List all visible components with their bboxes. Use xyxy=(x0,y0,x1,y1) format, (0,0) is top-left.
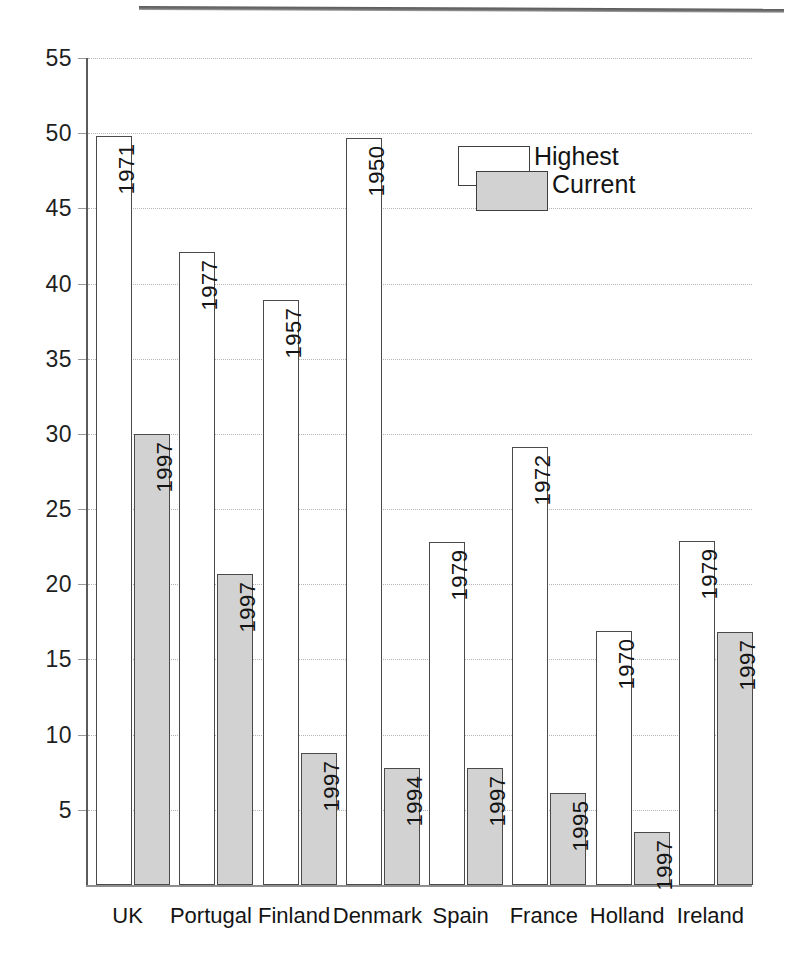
y-axis-tick xyxy=(78,359,86,360)
bar-value-label: 1971 xyxy=(114,144,140,195)
legend-swatch-current xyxy=(476,171,548,211)
x-axis-category-label: Spain xyxy=(432,903,488,929)
y-axis-tick xyxy=(78,58,86,59)
bar-france-current[interactable]: 1995 xyxy=(550,793,586,885)
y-axis-tick-label: 5 xyxy=(59,796,72,823)
y-axis-tick-label: 10 xyxy=(45,721,72,748)
bar-group: 19571997Finland xyxy=(253,58,336,885)
bar-finland-highest[interactable]: 1957 xyxy=(263,300,299,885)
bar-group: 19771997Portugal xyxy=(169,58,252,885)
bar-ireland-current[interactable]: 1997 xyxy=(717,632,753,885)
bar-value-label: 1977 xyxy=(197,260,223,311)
y-axis-tick xyxy=(78,584,86,585)
y-axis-tick-label: 30 xyxy=(45,420,72,447)
x-axis-category-label: Ireland xyxy=(677,903,744,929)
x-axis-category-label: Holland xyxy=(590,903,665,929)
bar-value-label: 1972 xyxy=(530,455,556,506)
bar-ireland-highest[interactable]: 1979 xyxy=(679,541,715,885)
y-axis-tick-label: 15 xyxy=(45,646,72,673)
y-axis-tick xyxy=(78,810,86,811)
bar-uk-current[interactable]: 1997 xyxy=(134,434,170,885)
bar-finland-current[interactable]: 1997 xyxy=(301,753,337,885)
bar-chart: 51015202530354045505519711997UK19771997P… xyxy=(0,0,789,966)
bar-portugal-current[interactable]: 1997 xyxy=(217,574,253,885)
x-axis-category-label: Portugal xyxy=(170,903,252,929)
x-axis-category-label: Finland xyxy=(258,903,330,929)
y-axis-tick-label: 55 xyxy=(45,45,72,72)
y-axis-tick-label: 50 xyxy=(45,120,72,147)
bar-value-label: 1950 xyxy=(364,145,390,196)
bar-holland-current[interactable]: 1997 xyxy=(634,832,670,885)
y-axis-tick xyxy=(78,509,86,510)
bar-uk-highest[interactable]: 1971 xyxy=(96,136,132,885)
bar-value-label: 1970 xyxy=(614,638,640,689)
y-axis-tick-label: 20 xyxy=(45,571,72,598)
bar-spain-current[interactable]: 1997 xyxy=(467,768,503,885)
bar-group: 19711997UK xyxy=(86,58,169,885)
y-axis-tick xyxy=(78,284,86,285)
x-axis-category-label: France xyxy=(510,903,578,929)
bar-group: 19501994Denmark xyxy=(336,58,419,885)
legend: Highest Current xyxy=(458,146,698,224)
x-axis-category-label: Denmark xyxy=(333,903,422,929)
y-axis-tick-label: 25 xyxy=(45,496,72,523)
y-axis-tick-label: 45 xyxy=(45,195,72,222)
y-axis-tick xyxy=(78,434,86,435)
y-axis-tick-label: 35 xyxy=(45,345,72,372)
legend-label-highest: Highest xyxy=(534,142,619,171)
y-axis-tick xyxy=(78,659,86,660)
bar-value-label: 1957 xyxy=(281,308,307,359)
y-axis-tick xyxy=(78,735,86,736)
bar-portugal-highest[interactable]: 1977 xyxy=(179,252,215,885)
bar-value-label: 1979 xyxy=(697,548,723,599)
y-axis-tick xyxy=(78,133,86,134)
y-axis-tick xyxy=(78,208,86,209)
bar-france-highest[interactable]: 1972 xyxy=(512,447,548,885)
x-axis-category-label: UK xyxy=(112,903,143,929)
bar-value-label: 1997 xyxy=(735,640,761,691)
legend-label-current: Current xyxy=(552,170,635,199)
bar-denmark-highest[interactable]: 1950 xyxy=(346,138,382,885)
y-axis-tick-label: 40 xyxy=(45,270,72,297)
bar-spain-highest[interactable]: 1979 xyxy=(429,542,465,885)
bar-denmark-current[interactable]: 1994 xyxy=(384,768,420,885)
bar-value-label: 1979 xyxy=(447,550,473,601)
bar-holland-highest[interactable]: 1970 xyxy=(596,631,632,885)
